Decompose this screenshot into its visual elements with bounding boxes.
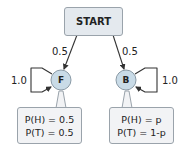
- diagram-canvas: START 0.5 0.5 1.0 1.0 F B P(H) = 0.5 P(T…: [0, 0, 187, 151]
- self-loop-f: [31, 68, 52, 92]
- callout-pointer-b: [122, 91, 132, 108]
- callout-pointer-f: [56, 91, 66, 108]
- emission-f-heads: P(H) = 0.5: [25, 113, 74, 126]
- emission-callout-f: P(H) = 0.5 P(T) = 0.5: [17, 107, 82, 144]
- emission-f-tails: P(T) = 0.5: [25, 126, 73, 139]
- start-node: START: [64, 7, 123, 36]
- emission-b-heads: P(H) = p: [121, 113, 161, 126]
- emission-b-tails: P(T) = 1-p: [117, 126, 165, 139]
- edge-label-loop-b: 1.0: [162, 76, 178, 86]
- edge-label-loop-f: 1.0: [11, 76, 27, 86]
- emission-callout-b: P(H) = p P(T) = 1-p: [109, 107, 174, 144]
- start-label: START: [76, 16, 111, 27]
- node-f-label: F: [51, 75, 71, 85]
- edge-label-start-f: 0.5: [52, 47, 68, 57]
- node-b-label: B: [116, 75, 136, 85]
- edge-label-start-b: 0.5: [122, 47, 138, 57]
- self-loop-b: [135, 68, 157, 92]
